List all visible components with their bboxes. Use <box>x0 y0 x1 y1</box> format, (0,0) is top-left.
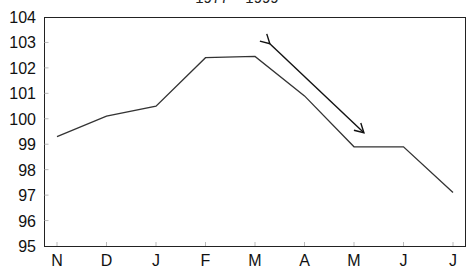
x-tick-label: N <box>51 252 63 269</box>
y-tick-label: 103 <box>9 34 36 51</box>
plot-frame <box>45 18 466 247</box>
double-arrow-annotation <box>270 44 364 133</box>
y-tick-label: 104 <box>9 9 36 26</box>
data-line <box>57 56 453 192</box>
x-tick-label: F <box>201 252 211 269</box>
x-tick-label: M <box>248 252 261 269</box>
x-tick-label: J <box>400 252 408 269</box>
y-tick-label: 100 <box>9 111 36 128</box>
x-tick-label: J <box>152 252 160 269</box>
y-tick-label: 95 <box>18 238 36 255</box>
x-tick-label: J <box>449 252 457 269</box>
y-tick-label: 102 <box>9 60 36 77</box>
y-tick-label: 101 <box>9 85 36 102</box>
x-tick-label: M <box>347 252 360 269</box>
y-tick-label: 98 <box>18 162 36 179</box>
y-axis: 9596979899100101102103104 <box>9 9 48 255</box>
y-tick-label: 97 <box>18 187 36 204</box>
x-tick-label: D <box>101 252 113 269</box>
y-tick-label: 99 <box>18 136 36 153</box>
y-tick-label: 96 <box>18 213 36 230</box>
x-tick-label: A <box>299 252 310 269</box>
line-chart: 9596979899100101102103104 NDJFMAMJJ <box>0 0 474 275</box>
